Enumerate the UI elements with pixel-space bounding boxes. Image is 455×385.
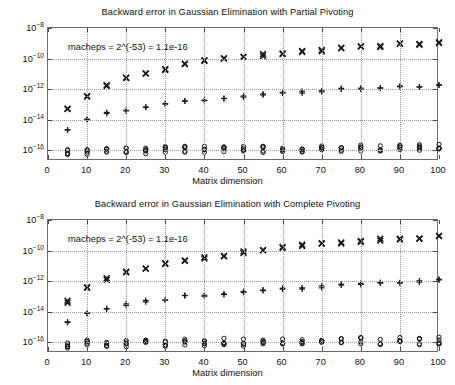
x-axis-tick bbox=[322, 155, 323, 159]
x-axis-tick bbox=[400, 220, 401, 224]
x-axis-tick bbox=[400, 155, 401, 159]
x-axis-tick bbox=[48, 220, 49, 224]
x-axis-tick bbox=[204, 347, 205, 351]
data-point bbox=[221, 253, 227, 259]
data-point bbox=[378, 144, 382, 148]
data-point bbox=[260, 91, 266, 97]
x-axis-tick-label: 40 bbox=[198, 357, 208, 367]
data-point bbox=[143, 70, 149, 76]
y-axis-tick-label: 10−12 bbox=[0, 274, 44, 286]
x-axis-tick-label: 60 bbox=[276, 165, 286, 175]
grid-line-vertical bbox=[361, 220, 362, 351]
x-axis-tick bbox=[165, 28, 166, 32]
y-axis-tick bbox=[48, 312, 52, 313]
x-axis-tick bbox=[400, 28, 401, 32]
x-axis-tick bbox=[126, 28, 127, 32]
x-axis-tick-label: 10 bbox=[81, 165, 91, 175]
x-axis-tick-label: 50 bbox=[237, 165, 247, 175]
grid-line-horizontal bbox=[48, 59, 437, 60]
y-axis-tick bbox=[48, 281, 52, 282]
grid-line-horizontal bbox=[48, 89, 437, 90]
x-axis-tick bbox=[126, 220, 127, 224]
y-axis-tick-label: 10−10 bbox=[0, 244, 44, 256]
data-point bbox=[104, 306, 110, 312]
x-axis-tick-label: 50 bbox=[237, 357, 247, 367]
y-axis-tick bbox=[433, 251, 437, 252]
x-axis-tick-label: 10 bbox=[81, 357, 91, 367]
x-axis-tick-label: 40 bbox=[198, 165, 208, 175]
y-axis-tick bbox=[433, 89, 437, 90]
y-axis-tick-label: 10−8 bbox=[0, 21, 44, 33]
x-axis-tick bbox=[87, 28, 88, 32]
x-axis-tick bbox=[165, 347, 166, 351]
x-axis-tick bbox=[439, 220, 440, 224]
x-axis-title-partial-pivoting: Matrix dimension bbox=[0, 176, 455, 186]
data-point bbox=[338, 45, 344, 51]
grid-line-horizontal bbox=[48, 120, 437, 121]
x-axis-tick-label: 20 bbox=[120, 357, 130, 367]
x-axis-tick bbox=[361, 347, 362, 351]
x-axis-tick-label: 100 bbox=[430, 165, 445, 175]
figure-canvas: Backward error in Gaussian Elimination w… bbox=[0, 0, 455, 385]
data-point bbox=[436, 40, 442, 46]
grid-line-horizontal bbox=[48, 342, 437, 343]
y-axis-tick-label: 10−10 bbox=[0, 52, 44, 64]
data-point bbox=[417, 236, 423, 242]
x-axis-tick-label: 20 bbox=[120, 165, 130, 175]
data-point bbox=[222, 336, 226, 340]
x-axis-tick bbox=[400, 347, 401, 351]
grid-line-vertical bbox=[400, 28, 401, 159]
x-axis-tick bbox=[283, 28, 284, 32]
x-axis-tick bbox=[48, 28, 49, 32]
y-axis-tick bbox=[433, 220, 437, 221]
y-axis-tick bbox=[433, 59, 437, 60]
x-axis-tick bbox=[87, 220, 88, 224]
x-axis-tick bbox=[244, 220, 245, 224]
x-axis-tick bbox=[361, 220, 362, 224]
y-axis-tick-label: 10−14 bbox=[0, 113, 44, 125]
y-axis-tick-label: 10−16 bbox=[0, 143, 44, 155]
y-axis-tick bbox=[433, 28, 437, 29]
x-axis-tick bbox=[87, 155, 88, 159]
x-axis-tick bbox=[439, 28, 440, 32]
x-axis-tick bbox=[48, 155, 49, 159]
grid-line-horizontal bbox=[48, 281, 437, 282]
y-axis-tick bbox=[48, 59, 52, 60]
x-axis-title-complete-pivoting: Matrix dimension bbox=[0, 368, 455, 378]
x-axis-tick bbox=[126, 155, 127, 159]
series-plus-series bbox=[65, 276, 442, 325]
data-point bbox=[436, 233, 442, 239]
y-axis-tick bbox=[433, 281, 437, 282]
grid-line-vertical bbox=[283, 28, 284, 159]
x-axis-tick-label: 80 bbox=[355, 165, 365, 175]
data-point bbox=[436, 82, 442, 88]
x-axis-tick bbox=[283, 220, 284, 224]
data-point bbox=[104, 109, 110, 115]
y-axis-tick-label: 10−14 bbox=[0, 305, 44, 317]
y-axis-tick bbox=[433, 342, 437, 343]
data-point bbox=[338, 282, 344, 288]
x-axis-tick-label: 80 bbox=[355, 357, 365, 367]
x-axis-tick-label: 70 bbox=[316, 357, 326, 367]
grid-line-horizontal bbox=[48, 251, 437, 252]
x-axis-tick-label: 30 bbox=[159, 165, 169, 175]
grid-line-vertical bbox=[322, 220, 323, 351]
y-axis-tick bbox=[433, 120, 437, 121]
data-point bbox=[65, 106, 71, 112]
grid-line-horizontal bbox=[48, 312, 437, 313]
macheps-annotation-complete-pivoting: macheps = 2^(-53) = 1.1e-16 bbox=[68, 234, 188, 244]
data-point bbox=[378, 337, 382, 341]
data-point bbox=[65, 319, 71, 325]
grid-line-vertical bbox=[322, 28, 323, 159]
data-point bbox=[299, 49, 305, 55]
data-point bbox=[182, 258, 188, 264]
x-axis-tick bbox=[204, 155, 205, 159]
y-axis-tick-label: 10−12 bbox=[0, 82, 44, 94]
y-axis-tick-label: 10−16 bbox=[0, 335, 44, 347]
x-axis-tick bbox=[361, 155, 362, 159]
y-axis-tick bbox=[48, 342, 52, 343]
grid-line-vertical bbox=[283, 220, 284, 351]
x-axis-tick bbox=[439, 155, 440, 159]
data-point bbox=[182, 293, 188, 299]
x-axis-tick bbox=[283, 347, 284, 351]
